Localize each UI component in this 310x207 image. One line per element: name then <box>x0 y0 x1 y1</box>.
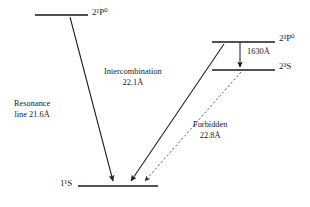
transition-resonance <box>70 17 113 181</box>
resonance-line2: line 21.6Å <box>14 111 50 120</box>
energy-level-diagram: 2¹P⁰ 2³P⁰ 2³S 1¹S 1630Å Resonance line 2… <box>0 0 310 207</box>
intercombination-line1: Intercombination <box>104 67 162 76</box>
transition-label-intercombination: Intercombination 22.1Å <box>104 68 162 88</box>
transition-label-1630: 1630Å <box>247 48 270 57</box>
forbidden-line2: 22.8Å <box>193 132 227 141</box>
transition-label-forbidden: Forbidden 22.8Å <box>193 121 227 141</box>
level-label-2p1: 2¹P⁰ <box>92 8 108 17</box>
level-label-2s3: 2³S <box>279 62 291 71</box>
level-label-2p3: 2³P⁰ <box>279 34 295 43</box>
forbidden-line1: Forbidden <box>193 120 227 129</box>
resonance-line1: Resonance <box>14 99 50 108</box>
level-label-1s1: 1¹S <box>60 179 72 188</box>
intercombination-line2: 22.1Å <box>104 79 162 88</box>
transition-label-resonance: Resonance line 21.6Å <box>14 100 50 120</box>
transition-intercombination <box>131 44 224 181</box>
